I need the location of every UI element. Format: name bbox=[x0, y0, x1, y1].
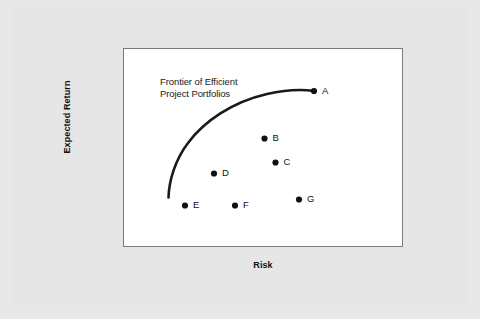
efficient-frontier-curve bbox=[169, 90, 315, 197]
data-point-b bbox=[261, 135, 267, 141]
data-point-markers bbox=[182, 88, 317, 209]
frontier-annotation: Frontier of Efficient Project Portfolios bbox=[160, 76, 237, 99]
figure-container: Expected Return Frontier of Efficient Pr… bbox=[0, 0, 480, 319]
data-point-c bbox=[272, 159, 278, 165]
plot-area: Frontier of Efficient Project Portfolios… bbox=[123, 48, 403, 247]
data-point-g bbox=[296, 196, 302, 202]
data-point-a bbox=[311, 88, 317, 94]
x-axis-label: Risk bbox=[123, 260, 403, 270]
data-point-label-f: F bbox=[243, 200, 249, 210]
frontier-annotation-line-2: Project Portfolios bbox=[160, 88, 237, 100]
data-point-label-g: G bbox=[307, 194, 314, 204]
data-point-label-d: D bbox=[222, 168, 229, 178]
data-point-label-a: A bbox=[322, 86, 328, 96]
data-point-e bbox=[182, 202, 188, 208]
data-point-label-b: B bbox=[273, 133, 279, 143]
frontier-annotation-line-1: Frontier of Efficient bbox=[160, 76, 237, 88]
data-point-f bbox=[232, 202, 238, 208]
data-point-label-c: C bbox=[284, 157, 291, 167]
data-point-label-e: E bbox=[193, 200, 199, 210]
y-axis-label: Expected Return bbox=[62, 57, 72, 177]
data-point-d bbox=[211, 170, 217, 176]
figure-inner-panel: Expected Return Frontier of Efficient Pr… bbox=[10, 8, 470, 306]
